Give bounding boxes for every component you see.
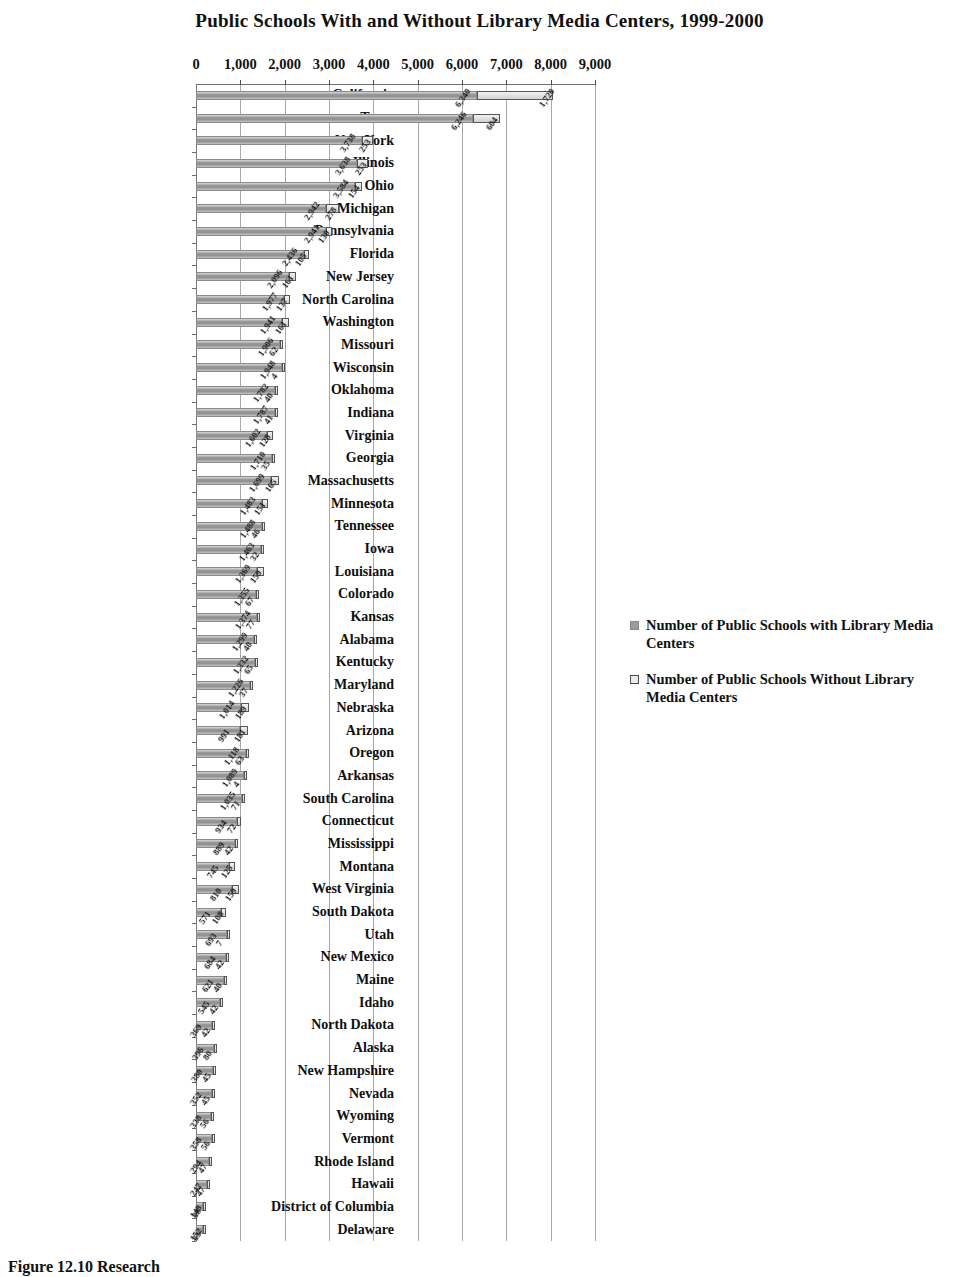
bar-without-library xyxy=(224,976,227,985)
bar-with-library xyxy=(196,91,477,100)
bar-with-library xyxy=(196,114,473,123)
chart-row: New Hampshire38045 xyxy=(196,1060,595,1083)
category-label: New Mexico xyxy=(321,950,394,964)
chart-row: Minnesota1,483151 xyxy=(196,492,595,515)
bar-without-library xyxy=(272,454,275,463)
category-label: Missouri xyxy=(341,338,394,352)
x-axis-tick-labels: 01,0002,0003,0004,0005,0006,0007,0008,00… xyxy=(0,56,959,76)
bar-without-library xyxy=(227,930,230,939)
chart-row: Vermont35856 xyxy=(196,1128,595,1151)
chart-container: Public Schools With and Without Library … xyxy=(0,0,959,1277)
chart-row: Utah6937 xyxy=(196,923,595,946)
category-label: Oklahoma xyxy=(331,383,394,397)
x-tick-label: 3,000 xyxy=(313,56,346,73)
bar-without-library xyxy=(213,1066,216,1075)
category-label: Massachusetts xyxy=(308,474,394,488)
bar-without-library xyxy=(226,953,229,962)
chart-row: New Jersey2,096161 xyxy=(196,265,595,288)
bar-without-library xyxy=(255,658,258,667)
chart-row: Missouri1,90662 xyxy=(196,334,595,357)
gridline xyxy=(595,84,596,1241)
bar-without-library xyxy=(257,613,260,622)
chart-row: Nevada35245 xyxy=(196,1082,595,1105)
bar-without-library xyxy=(242,794,245,803)
chart-row: Delaware15233 xyxy=(196,1218,595,1241)
bar-without-library xyxy=(244,771,247,780)
category-label: South Carolina xyxy=(303,792,394,806)
chart-row: Connecticut93472 xyxy=(196,810,595,833)
x-tick-label: 8,000 xyxy=(534,56,567,73)
bar-without-library xyxy=(211,1112,214,1121)
bar-without-library xyxy=(246,749,249,758)
chart-row: Alabama1,29940 xyxy=(196,628,595,651)
chart-row: Oregon1,11863 xyxy=(196,742,595,765)
x-tick-label: 9,000 xyxy=(579,56,612,73)
bar-with-library xyxy=(196,159,357,168)
bar-without-library xyxy=(235,839,238,848)
category-label: Washington xyxy=(322,315,394,329)
chart-row: Oklahoma1,78240 xyxy=(196,379,595,402)
chart-row: Kentucky1,33265 xyxy=(196,651,595,674)
bar-without-library xyxy=(262,522,265,531)
category-label: Montana xyxy=(340,860,394,874)
category-label: Alabama xyxy=(340,633,394,647)
chart-row: Idaho54542 xyxy=(196,991,595,1014)
chart-row: Montana745125 xyxy=(196,855,595,878)
chart-row: Florida2,436105 xyxy=(196,243,595,266)
chart-row: Michigan2,942278 xyxy=(196,197,595,220)
bar-without-library xyxy=(237,817,240,826)
chart-row: Louisiana1,369159 xyxy=(196,560,595,583)
chart-row: New Mexico68442 xyxy=(196,946,595,969)
chart-row: Mississippi88942 xyxy=(196,833,595,856)
figure-caption: Figure 12.10 Research xyxy=(8,1258,428,1277)
category-label: Hawaii xyxy=(351,1177,394,1191)
chart-row: Ohio3,584154 xyxy=(196,175,595,198)
chart-row: South Carolina1,03571 xyxy=(196,787,595,810)
legend-label: Number of Public Schools with Library Me… xyxy=(646,616,940,652)
bar-without-library xyxy=(282,363,285,372)
category-label: Kansas xyxy=(350,610,394,624)
x-tick-label: 2,000 xyxy=(268,56,301,73)
bar-without-library xyxy=(280,340,283,349)
bar-with-library xyxy=(196,136,362,145)
plot-area: California6,3401,720Texas6,246604New Yor… xyxy=(196,84,595,1241)
category-label: Virginia xyxy=(345,429,394,443)
category-label: New Jersey xyxy=(326,270,394,284)
chart-row: Georgia1,71035 xyxy=(196,447,595,470)
bar-without-library xyxy=(220,998,223,1007)
bar-without-library xyxy=(275,386,278,395)
chart-row: California6,3401,720 xyxy=(196,84,595,107)
category-label: Florida xyxy=(350,247,394,261)
category-label: District of Columbia xyxy=(271,1200,394,1214)
chart-row: Rhode Island29447 xyxy=(196,1150,595,1173)
category-label: Tennessee xyxy=(335,519,394,533)
category-label: Vermont xyxy=(342,1132,394,1146)
bar-without-library xyxy=(275,408,278,417)
legend-item[interactable]: Number of Public Schools with Library Me… xyxy=(630,616,940,652)
bar-with-library xyxy=(196,182,355,191)
chart-row: Iowa1,46332 xyxy=(196,538,595,561)
bar-without-library xyxy=(254,635,257,644)
category-label: North Dakota xyxy=(311,1018,394,1032)
chart-row: Maine62140 xyxy=(196,969,595,992)
category-label: Ohio xyxy=(364,179,394,193)
category-label: Georgia xyxy=(346,451,394,465)
chart-row: Indiana1,78741 xyxy=(196,402,595,425)
chart-row: Illinois3,638253 xyxy=(196,152,595,175)
x-tick-label: 4,000 xyxy=(357,56,390,73)
bar-without-library xyxy=(256,590,259,599)
category-label: Kentucky xyxy=(336,655,394,669)
x-tick-label: 5,000 xyxy=(401,56,434,73)
chart-row: Wyoming33856 xyxy=(196,1105,595,1128)
category-label: North Carolina xyxy=(302,293,394,307)
chart-row: Hawaii24747 xyxy=(196,1173,595,1196)
legend-swatch-with-icon xyxy=(630,621,639,630)
x-tick-label: 0 xyxy=(192,56,199,73)
category-label: Nebraska xyxy=(336,701,394,715)
bar-without-library xyxy=(209,1157,212,1166)
category-label: Colorado xyxy=(338,587,394,601)
legend-item[interactable]: Number of Public Schools Without Library… xyxy=(630,670,940,706)
chart-row: Arizona991181 xyxy=(196,719,595,742)
category-label: Oregon xyxy=(349,746,394,760)
category-label: Wisconsin xyxy=(333,361,394,375)
